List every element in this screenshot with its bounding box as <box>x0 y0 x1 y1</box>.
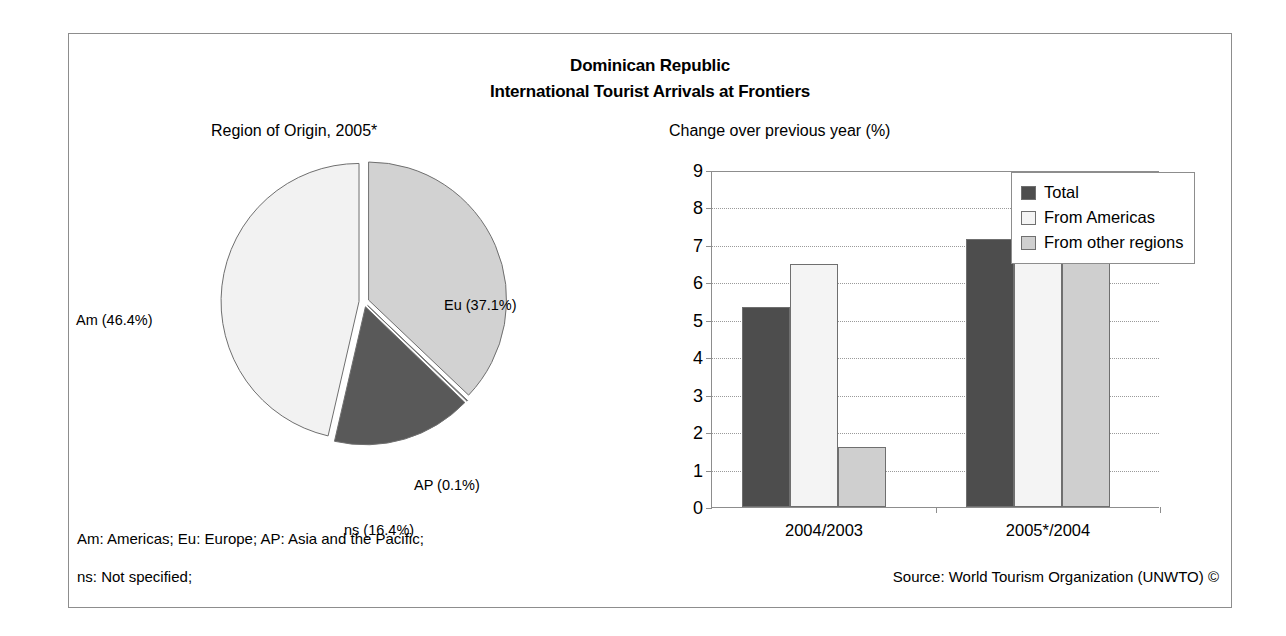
legend-label: From Americas <box>1044 208 1155 227</box>
bar-total-20052004 <box>966 239 1014 507</box>
y-axis-tick-8 <box>706 208 712 209</box>
pie-slice-label-am: Am (46.4%) <box>76 312 153 328</box>
y-axis-tick-2 <box>706 433 712 434</box>
figure-title-line-2: International Tourist Arrivals at Fronti… <box>69 82 1231 102</box>
legend-label: From other regions <box>1044 233 1183 252</box>
pie-slice-am <box>221 163 359 435</box>
pie-chart-panel: Eu (37.1%) AP (0.1%) ns (16.4%) Am (46.4… <box>69 144 639 544</box>
figure-title-line-1: Dominican Republic <box>69 56 1231 76</box>
x-axis-category-label-2: 2005*/2004 <box>1006 521 1090 540</box>
bar-total-20042003 <box>742 307 790 507</box>
footnote-abbreviations-line-2: ns: Not specified; <box>77 568 192 585</box>
y-axis-label-0: 0 <box>693 499 703 517</box>
bar-chart-panel: 01234567892004/20032005*/2004 TotalFrom … <box>659 144 1219 564</box>
x-axis-tick-1 <box>936 507 937 513</box>
pie-slice-label-eu: Eu (37.1%) <box>444 297 517 313</box>
source-credit: Source: World Tourism Organization (UNWT… <box>893 568 1219 585</box>
y-axis-tick-9 <box>706 171 712 172</box>
y-axis-label-6: 6 <box>693 274 703 292</box>
footnote-abbreviations-line-1: Am: Americas; Eu: Europe; AP: Asia and t… <box>77 530 424 547</box>
y-axis-label-2: 2 <box>693 424 703 442</box>
bar-from-other-regions-20042003 <box>838 447 886 507</box>
y-axis-label-5: 5 <box>693 312 703 330</box>
y-axis-label-3: 3 <box>693 387 703 405</box>
pie-slice-label-ap: AP (0.1%) <box>414 477 480 493</box>
x-axis-tick-2 <box>1160 507 1161 513</box>
x-axis-category-label-1: 2004/2003 <box>785 521 863 540</box>
bar-chart-subtitle: Change over previous year (%) <box>669 122 890 140</box>
pie-chart-subtitle: Region of Origin, 2005* <box>211 122 377 140</box>
y-axis-tick-6 <box>706 283 712 284</box>
legend-item-total: Total <box>1021 180 1183 205</box>
legend-label: Total <box>1044 183 1079 202</box>
y-axis-tick-0 <box>706 508 712 509</box>
legend-swatch-icon-from-americas <box>1021 211 1036 225</box>
y-axis-tick-3 <box>706 396 712 397</box>
y-axis-tick-4 <box>706 358 712 359</box>
legend-swatch-icon-from-other-regions <box>1021 236 1036 250</box>
legend-swatch-icon-total <box>1021 186 1036 200</box>
bar-from-americas-20042003 <box>790 264 838 507</box>
y-axis-label-9: 9 <box>693 162 703 180</box>
y-axis-tick-5 <box>706 321 712 322</box>
y-axis-label-7: 7 <box>693 237 703 255</box>
y-axis-label-1: 1 <box>693 462 703 480</box>
y-axis-tick-1 <box>706 471 712 472</box>
legend-item-from-other-regions: From other regions <box>1021 230 1183 255</box>
legend-item-from-americas: From Americas <box>1021 205 1183 230</box>
y-axis-label-4: 4 <box>693 349 703 367</box>
y-axis-label-8: 8 <box>693 199 703 217</box>
figure-frame: Dominican Republic International Tourist… <box>68 33 1232 608</box>
y-axis-tick-7 <box>706 246 712 247</box>
bar-from-americas-20052004 <box>1014 226 1062 507</box>
bar-chart-legend: TotalFrom AmericasFrom other regions <box>1011 172 1195 264</box>
